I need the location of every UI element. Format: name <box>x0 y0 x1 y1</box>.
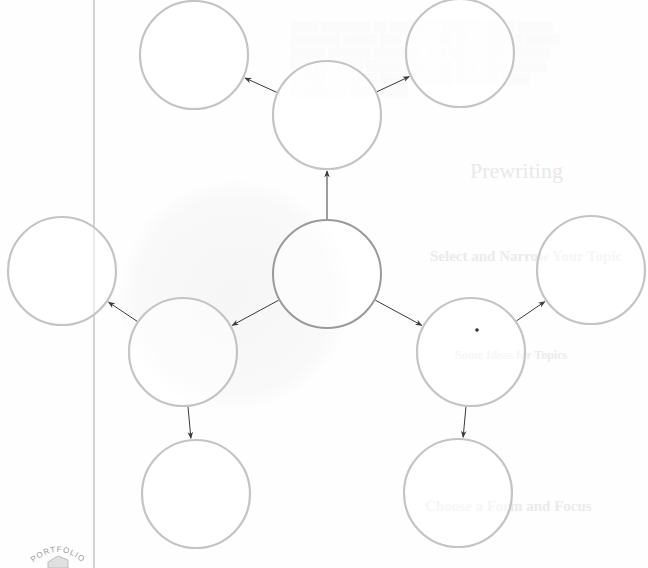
node-bottom-left[interactable] <box>142 440 250 548</box>
arrow-lower-left-to-left <box>109 302 138 321</box>
node-top-right[interactable] <box>406 0 514 107</box>
arrow-top-to-top-right <box>377 77 409 92</box>
arrow-center-to-lower-left <box>232 300 278 325</box>
cluster-diagram <box>0 0 648 568</box>
node-top-left[interactable] <box>140 1 248 109</box>
branch-circle[interactable] <box>406 0 514 107</box>
branch-circle[interactable] <box>417 298 525 406</box>
branch-circle[interactable] <box>129 298 237 406</box>
arrow-lower-right-to-right <box>516 302 544 321</box>
arrow-lower-right-to-bottom-right <box>463 407 466 437</box>
stray-marks <box>475 328 479 332</box>
node-center[interactable] <box>273 220 381 328</box>
center-circle[interactable] <box>273 220 381 328</box>
node-left[interactable] <box>8 217 116 325</box>
node-top[interactable] <box>273 61 381 169</box>
pen-dot <box>475 328 479 332</box>
node-bottom-right[interactable] <box>404 439 512 547</box>
branch-circle[interactable] <box>273 61 381 169</box>
branch-circle[interactable] <box>142 440 250 548</box>
node-lower-left[interactable] <box>129 298 237 406</box>
branch-circle[interactable] <box>8 217 116 325</box>
node-right[interactable] <box>537 216 645 324</box>
arrow-lower-left-to-bottom-left <box>188 407 191 438</box>
branch-circle[interactable] <box>140 1 248 109</box>
worksheet-page: ░░░░ ░░░░░░░ ░░ ░░░░░░░ ░░░░░░ ░░░░ ░░░░… <box>0 0 648 568</box>
node-lower-right[interactable] <box>417 298 525 406</box>
arrow-top-to-top-left <box>245 78 277 92</box>
arrow-center-to-lower-right <box>375 300 421 325</box>
portfolio-icon: PORTFOLIO <box>28 540 88 568</box>
branch-circle[interactable] <box>537 216 645 324</box>
branch-circle[interactable] <box>404 439 512 547</box>
portfolio-badge: PORTFOLIO <box>28 540 88 568</box>
diagram-nodes <box>8 0 645 548</box>
